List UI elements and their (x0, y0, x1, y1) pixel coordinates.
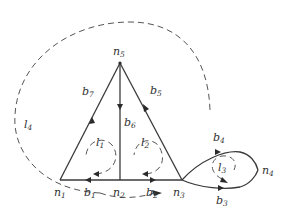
branch-b2-label: b2 (146, 186, 158, 200)
network-graph-diagram: n5 n1 n2 n3 n4 b1 b2 b3 b4 b5 b6 b7 l1 l… (0, 0, 287, 216)
loop-l2-label: l2 (141, 136, 150, 150)
loop-l1-label: l1 (96, 136, 104, 150)
branch-b5-label: b5 (150, 84, 162, 98)
loop-l3-arrow-icon (220, 177, 228, 183)
branch-b7-label: b7 (82, 85, 94, 99)
node-n5-dot (118, 61, 121, 64)
branch-b1-arrow-icon (85, 177, 91, 183)
loop-l1-arrow-icon (93, 171, 99, 177)
branch-b3-label: b3 (216, 194, 228, 208)
node-n4-label: n4 (262, 164, 274, 178)
branch-b6-label: b6 (124, 116, 136, 130)
loop-l4-label: l4 (24, 118, 33, 132)
node-n1-label: n1 (54, 186, 66, 200)
node-n2-label: n2 (113, 186, 125, 200)
branch-b1-label: b1 (84, 186, 96, 200)
node-n5-label: n5 (113, 45, 125, 59)
loop-l2-arrow-icon (142, 171, 148, 177)
branch-b6-arrow-icon (117, 104, 123, 110)
branch-b4-label: b4 (213, 131, 225, 145)
node-n3-label: n3 (173, 186, 185, 200)
loop-l3-label: l3 (218, 161, 227, 175)
branch-b7-line (60, 63, 120, 180)
branch-b2-arrow-icon (150, 177, 156, 183)
branch-b3-arrow-icon (218, 185, 224, 191)
